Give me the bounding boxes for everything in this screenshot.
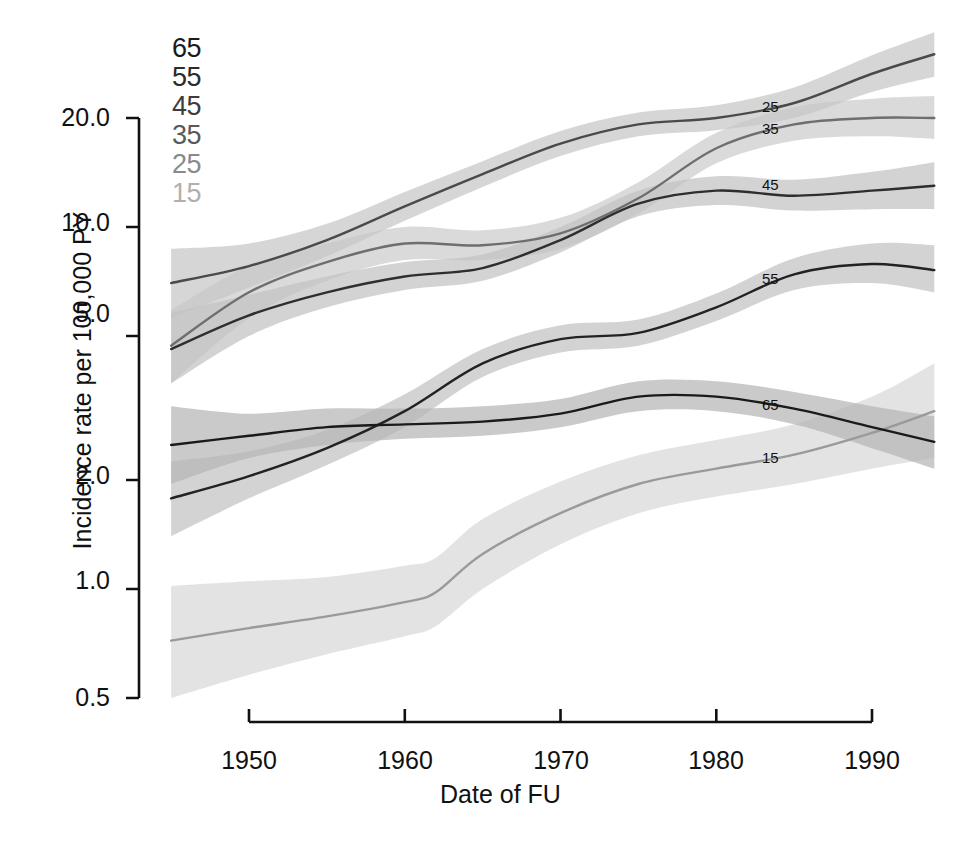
plot-canvas (0, 0, 980, 846)
xtick-label-1950: 1950 (199, 746, 299, 775)
series-label-45: 45 (762, 176, 779, 193)
ytick-label-0-5: 0.5 (20, 683, 110, 712)
incidence-rate-chart: 20.0 10.0 5.0 2.0 1.0 0.5 1950 1960 1970… (0, 0, 980, 846)
xtick-label-1980: 1980 (666, 746, 766, 775)
ytick-label-1: 1.0 (20, 566, 110, 595)
series-label-55: 55 (762, 270, 779, 287)
legend-item-65: 65 (172, 33, 201, 64)
legend-item-15: 15 (172, 178, 201, 209)
y-axis-line (126, 118, 139, 698)
x-axis-title: Date of FU (440, 780, 561, 809)
legend-item-55: 55 (172, 62, 201, 93)
ytick-label-5: 5.0 (20, 299, 110, 328)
x-axis-line (249, 709, 872, 722)
series-label-35: 35 (762, 120, 779, 137)
xtick-label-1960: 1960 (355, 746, 455, 775)
ytick-label-20: 20.0 (20, 103, 110, 132)
xtick-label-1990: 1990 (822, 746, 922, 775)
legend-item-25: 25 (172, 149, 201, 180)
series-label-65: 65 (762, 396, 779, 413)
y-axis-title: Incidence rate per 100,000 PY (68, 181, 97, 581)
legend-item-45: 45 (172, 91, 201, 122)
ytick-label-2: 2.0 (20, 461, 110, 490)
series-label-25: 25 (762, 98, 779, 115)
ytick-label-10: 10.0 (20, 208, 110, 237)
xtick-label-1970: 1970 (511, 746, 611, 775)
legend-item-35: 35 (172, 120, 201, 151)
confidence-bands-group (171, 32, 934, 698)
series-label-15: 15 (762, 449, 779, 466)
